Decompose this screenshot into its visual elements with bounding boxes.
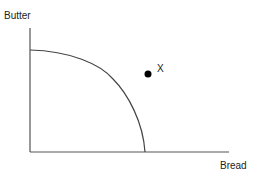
point-x-label: X — [157, 64, 164, 74]
point-x-marker — [145, 71, 152, 78]
ppf-diagram — [0, 0, 259, 174]
y-axis-label: Butter — [4, 11, 31, 21]
x-axis-label: Bread — [220, 161, 247, 171]
ppf-curve — [30, 50, 145, 152]
